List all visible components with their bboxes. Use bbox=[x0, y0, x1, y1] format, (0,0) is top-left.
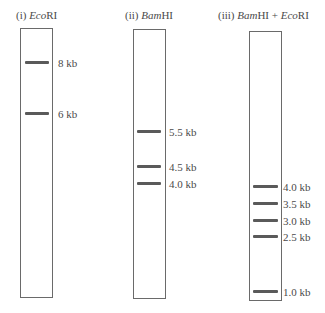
band-label: 4.0 kb bbox=[283, 181, 311, 193]
gel-lane-bamhi bbox=[133, 29, 166, 299]
lane-title-bamhi: (ii) BamHI bbox=[125, 9, 173, 21]
band-label: 1.0 kb bbox=[283, 286, 311, 298]
enzyme-name-italic: Eco bbox=[281, 9, 298, 21]
dna-band-3-0kb bbox=[253, 219, 278, 222]
dna-band-4-0kb bbox=[253, 185, 278, 188]
band-label: 8 kb bbox=[58, 57, 77, 69]
dna-band-1-0kb bbox=[253, 290, 278, 293]
gel-lane-ecori bbox=[20, 28, 53, 298]
dna-band-6kb bbox=[25, 112, 49, 115]
band-label: 2.5 kb bbox=[283, 231, 311, 243]
dna-band-4-5kb bbox=[137, 165, 161, 168]
dna-band-8kb bbox=[25, 61, 49, 64]
band-label: 4.5 kb bbox=[169, 161, 197, 173]
enzyme-name-italic: Eco bbox=[29, 9, 46, 21]
gel-lane-bamhi-ecori bbox=[249, 31, 282, 301]
enzyme-name-italic: Bam bbox=[237, 9, 257, 21]
lane-title-bamhi-ecori: (iii) BamHI + EcoRI bbox=[218, 9, 309, 21]
band-label: 5.5 kb bbox=[169, 126, 197, 138]
enzyme-name-suffix: HI + bbox=[257, 9, 280, 21]
lane-number: (i) bbox=[16, 9, 29, 21]
dna-band-3-5kb bbox=[253, 202, 278, 205]
lane-title-ecori: (i) EcoRI bbox=[16, 9, 57, 21]
band-label: 3.0 kb bbox=[283, 215, 311, 227]
enzyme-name-suffix: HI bbox=[161, 9, 173, 21]
enzyme-name-suffix: RI bbox=[298, 9, 309, 21]
dna-band-2-5kb bbox=[253, 235, 278, 238]
enzyme-name-italic: Bam bbox=[141, 9, 161, 21]
dna-band-5-5kb bbox=[137, 130, 161, 133]
dna-band-4-0kb bbox=[137, 182, 161, 185]
lane-number: (ii) bbox=[125, 9, 141, 21]
enzyme-name-suffix: RI bbox=[46, 9, 57, 21]
band-label: 3.5 kb bbox=[283, 198, 311, 210]
band-label: 4.0 kb bbox=[169, 178, 197, 190]
band-label: 6 kb bbox=[58, 108, 77, 120]
lane-number: (iii) bbox=[218, 9, 237, 21]
